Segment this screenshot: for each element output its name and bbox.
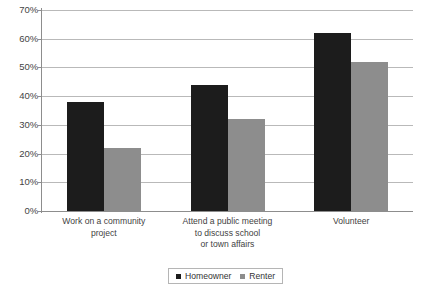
x-axis-category-label: Work on a communityproject bbox=[42, 216, 166, 239]
legend-swatch-icon bbox=[240, 274, 245, 279]
y-axis-tick-label: 20% bbox=[4, 149, 38, 159]
legend-label: Renter bbox=[249, 271, 275, 281]
legend-item-homeowner[interactable]: Homeowner bbox=[176, 271, 231, 281]
bar-homeowner-0 bbox=[67, 102, 104, 211]
bar-renter-0 bbox=[104, 148, 141, 211]
legend-item-renter[interactable]: Renter bbox=[240, 271, 275, 281]
chart-legend: HomeownerRenter bbox=[168, 268, 283, 284]
bar-renter-1 bbox=[228, 119, 265, 211]
category-label-line: to discuss school bbox=[166, 228, 290, 240]
y-axis-tick-label: 70% bbox=[4, 5, 38, 15]
y-axis-tick-label: 0% bbox=[4, 206, 38, 216]
bars bbox=[42, 10, 413, 211]
category-label-line: Work on a community bbox=[42, 216, 166, 228]
bar-chart: 0%10%20%30%40%50%60%70% Work on a commun… bbox=[0, 0, 422, 296]
y-axis-tick-label: 10% bbox=[4, 177, 38, 187]
legend-swatch-icon bbox=[176, 274, 181, 279]
x-axis-category-labels: Work on a communityprojectAttend a publi… bbox=[42, 216, 413, 262]
y-axis-tick-labels: 0%10%20%30%40%50%60%70% bbox=[0, 10, 38, 211]
category-label-line: project bbox=[42, 228, 166, 240]
bar-homeowner-2 bbox=[314, 33, 351, 211]
x-axis-category-label: Volunteer bbox=[289, 216, 413, 228]
plot-area bbox=[42, 10, 413, 211]
category-label-line: or town affairs bbox=[166, 239, 290, 251]
bar-renter-2 bbox=[351, 62, 388, 211]
x-axis-category-label: Attend a public meetingto discuss school… bbox=[166, 216, 290, 251]
y-axis-tick-label: 30% bbox=[4, 120, 38, 130]
y-axis-tick-label: 60% bbox=[4, 34, 38, 44]
y-axis-tick-label: 40% bbox=[4, 91, 38, 101]
y-axis-tick-label: 50% bbox=[4, 62, 38, 72]
legend-label: Homeowner bbox=[185, 271, 231, 281]
category-label-line: Volunteer bbox=[289, 216, 413, 228]
category-label-line: Attend a public meeting bbox=[166, 216, 290, 228]
gridline bbox=[42, 211, 413, 212]
bar-homeowner-1 bbox=[191, 85, 228, 211]
